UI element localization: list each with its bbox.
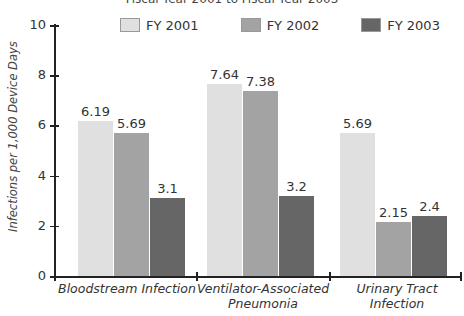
bar-value-label: 7.38 (236, 74, 286, 89)
bar-value-label: 3.2 (272, 179, 322, 194)
bar (78, 121, 113, 276)
y-tick-label: 4 (18, 168, 46, 183)
bar-value-label: 5.69 (333, 116, 383, 131)
y-tick-label: 2 (18, 218, 46, 233)
x-tick (460, 272, 462, 281)
y-tick (50, 75, 59, 77)
x-axis (54, 276, 461, 278)
category-label-vap: Ventilator-Associated Pneumonia (196, 281, 330, 311)
y-tick (50, 25, 59, 27)
bar (207, 84, 242, 276)
bar (412, 216, 447, 276)
y-tick-label: 10 (18, 17, 46, 32)
y-tick (50, 125, 59, 127)
y-axis (54, 24, 56, 277)
x-tick (196, 272, 198, 281)
category-label-bloodstream: Bloodstream Infection (56, 281, 198, 296)
y-tick-label: 8 (18, 67, 46, 82)
bar (150, 198, 185, 276)
y-tick-label: 0 (18, 268, 46, 283)
bar-value-label: 2.4 (405, 199, 455, 214)
x-tick (329, 272, 331, 281)
y-tick (50, 176, 59, 178)
plot-area: 02468106.195.693.17.647.383.25.692.152.4 (0, 0, 464, 316)
x-tick (54, 272, 56, 281)
bar (376, 222, 411, 276)
category-label-uti: Urinary Tract Infection (330, 281, 464, 311)
bar (114, 133, 149, 276)
y-tick (50, 226, 59, 228)
y-tick-label: 6 (18, 117, 46, 132)
bar-value-label: 5.69 (107, 116, 157, 131)
category-label-line: Ventilator-Associated (196, 281, 330, 296)
bar-value-label: 3.1 (143, 181, 193, 196)
category-label-line: Pneumonia (196, 296, 330, 311)
bar (279, 196, 314, 276)
